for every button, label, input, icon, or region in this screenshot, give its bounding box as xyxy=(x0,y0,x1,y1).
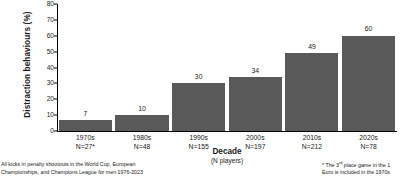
y-tick-label: 30 xyxy=(34,80,54,87)
bar-group: 7 xyxy=(59,4,112,131)
y-tick-label: 50 xyxy=(34,48,54,55)
bar-value-label: 60 xyxy=(365,26,373,33)
bar-group: 60 xyxy=(342,4,395,131)
x-tick-decade: 2000s xyxy=(229,133,282,142)
footnote-left-line-1: All kicks in penalty shootouts in the Wo… xyxy=(1,161,211,169)
bar-series: 71030344960 xyxy=(57,4,397,131)
bar-chart-figure: Distraction behaviours (%) 0102030405060… xyxy=(0,0,411,179)
footnote-left: All kicks in penalty shootouts in the Wo… xyxy=(1,161,211,176)
footnote-right: * The 3rd place game in the 1 Euro is in… xyxy=(322,161,411,177)
bar-value-label: 49 xyxy=(308,44,316,51)
y-tick-label: 20 xyxy=(34,96,54,103)
bar-value-label: 10 xyxy=(138,106,146,113)
bar xyxy=(342,36,395,131)
bar xyxy=(229,77,282,131)
x-axis-title: Decade xyxy=(57,147,397,157)
x-tick-decade: 1990s xyxy=(172,133,225,142)
y-tick-label: 10 xyxy=(34,112,54,119)
x-tick-decade: 1980s xyxy=(115,133,168,142)
footnote-right-line-1: * The 3rd place game in the 1 xyxy=(322,161,411,169)
footnote-right-line-2: Euro is included in the 1970s xyxy=(322,169,411,177)
bar-value-label: 7 xyxy=(83,111,87,118)
bar-group: 30 xyxy=(172,4,225,131)
y-tick-label: 40 xyxy=(34,64,54,71)
bar xyxy=(285,53,338,131)
bar-group: 49 xyxy=(285,4,338,131)
bar xyxy=(115,115,168,131)
bar xyxy=(59,120,112,131)
x-tick-decade: 2020s xyxy=(342,133,395,142)
y-tick-label: 0 xyxy=(34,128,54,135)
y-tick-label: 60 xyxy=(34,32,54,39)
bar-value-label: 30 xyxy=(195,74,203,81)
y-tick-label: 80 xyxy=(34,1,54,8)
bar xyxy=(172,83,225,131)
bar-group: 10 xyxy=(115,4,168,131)
footnote-left-line-2: Championships, and Champions League for … xyxy=(1,169,211,177)
y-tick-label: 70 xyxy=(34,17,54,24)
footnote-right-pre: * The 3 xyxy=(322,162,339,168)
x-tick-decade: 1970s xyxy=(59,133,112,142)
bar-value-label: 34 xyxy=(252,68,260,75)
x-tick-decade: 2010s xyxy=(285,133,338,142)
bar-group: 34 xyxy=(229,4,282,131)
plot-area: 01020304050607080 71030344960 xyxy=(57,4,397,131)
y-axis-title: Distraction behaviours (%) xyxy=(23,5,32,125)
footnote-right-post: place game in the 1 xyxy=(342,162,390,168)
